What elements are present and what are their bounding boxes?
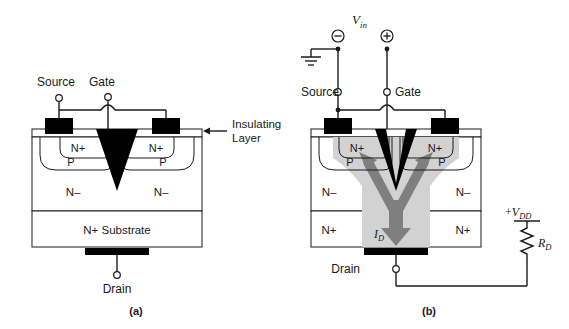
- n-minus-right-label-a: N–: [154, 186, 169, 198]
- insulating-layer-label-line1: Insulating: [232, 118, 281, 130]
- panel-a-caption: (a): [129, 305, 143, 317]
- source-terminal-node-a: [56, 95, 63, 102]
- source-contact-right-b: [431, 118, 459, 134]
- p-left-label-a: P: [67, 156, 74, 168]
- source-junction-dot-b: [336, 108, 341, 113]
- source-contact-left-b: [324, 118, 352, 134]
- drain-label-b: Drain: [331, 262, 360, 276]
- vin-plus-junction-dot-b: [385, 47, 390, 52]
- p-left-label-b: P: [346, 156, 353, 168]
- gate-label-a: Gate: [89, 75, 115, 89]
- substrate-left-label-b: N+: [321, 224, 336, 236]
- source-label-a: Source: [37, 75, 75, 89]
- insulating-layer-label-line2: Layer: [232, 132, 261, 144]
- gate-terminal-node-a: [105, 94, 112, 101]
- n-plus-left-label-a: N+: [71, 142, 85, 154]
- substrate-label-a: N+ Substrate: [83, 224, 150, 236]
- n-plus-right-label-a: N+: [149, 142, 163, 154]
- gate-label-b: Gate: [395, 85, 421, 99]
- gate-terminal-node-b: [384, 89, 391, 96]
- panel-b-caption: (b): [422, 305, 436, 317]
- drain-contact-b: [364, 248, 428, 255]
- n-minus-left-label-a: N–: [66, 186, 81, 198]
- n-minus-left-label-b: N–: [322, 186, 337, 198]
- n-plus-left-label-b: N+: [350, 142, 364, 154]
- n-minus-right-label-b: N–: [456, 186, 471, 198]
- p-right-label-b: P: [438, 156, 445, 168]
- drain-terminal-node-a: [114, 272, 121, 279]
- n-plus-right-label-b: N+: [428, 142, 442, 154]
- drain-label-a: Drain: [103, 282, 132, 296]
- vmos-transistor-figure: Source Gate N+ N+ P P N– N– N+ Substrate…: [0, 0, 569, 329]
- drain-contact-a: [85, 248, 149, 255]
- source-contact-right-a: [152, 118, 180, 134]
- source-contact-left-a: [45, 118, 73, 134]
- substrate-right-label-b: N+: [455, 224, 470, 236]
- p-right-label-a: P: [159, 156, 166, 168]
- source-label-b: Source: [301, 85, 339, 99]
- drain-terminal-node-b: [393, 266, 400, 273]
